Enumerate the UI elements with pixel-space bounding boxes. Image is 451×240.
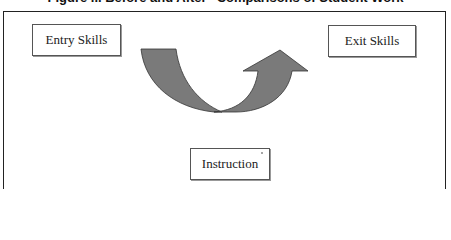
arrow-ascending-band bbox=[214, 50, 308, 112]
speck-mark bbox=[261, 152, 263, 154]
instruction-box: Instruction bbox=[190, 148, 270, 180]
instruction-label: Instruction bbox=[202, 156, 258, 172]
arrow-descending-band bbox=[141, 49, 222, 112]
